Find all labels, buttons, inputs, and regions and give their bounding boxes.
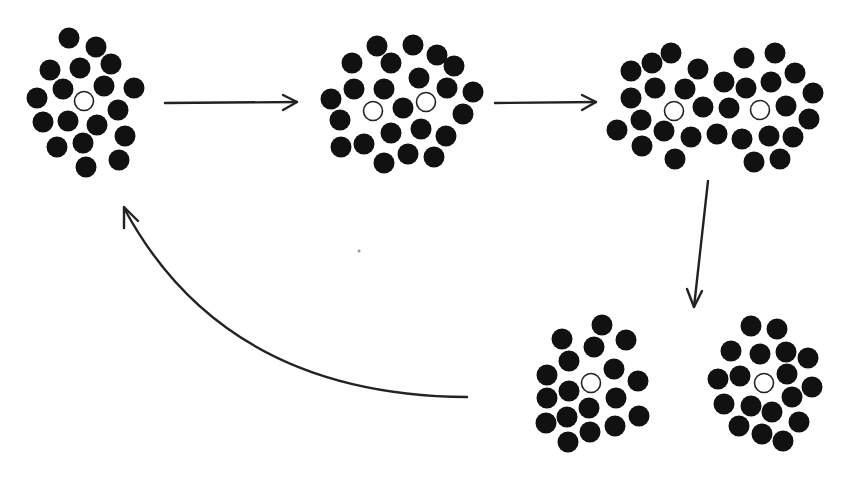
filled-particle [773,431,794,452]
filled-particle [53,79,74,100]
filled-particle [767,319,788,340]
arrow-shaft [165,102,297,103]
filled-particle [762,402,783,423]
filled-particle [708,369,729,390]
cluster-4-split-left [536,315,650,453]
filled-particle [744,152,765,173]
filled-particle [558,432,579,453]
filled-particle [115,126,136,147]
speck [358,250,361,253]
filled-particle [109,150,130,171]
filled-particle [605,416,626,437]
filled-particle [621,88,642,109]
filled-particle [76,157,97,178]
filled-particle [782,387,803,408]
filled-particle [661,43,682,64]
filled-particle [27,88,48,109]
filled-particle [732,129,753,150]
hollow-vacancy [755,374,774,393]
filled-particle [559,381,580,402]
filled-particle [398,144,419,165]
filled-particle [629,406,650,427]
arrow-shaft [694,181,708,307]
clusters-layer [27,28,824,453]
arrow-2-to-3 [495,95,596,110]
filled-particle [321,89,342,110]
filled-particle [719,98,740,119]
hollow-vacancy [75,92,94,111]
cluster-2-two-holes [321,35,484,174]
filled-particle [632,136,653,157]
filled-particle [344,79,365,100]
filled-particle [776,342,797,363]
filled-particle [606,388,627,409]
filled-particle [688,59,709,80]
filled-particle [33,112,54,133]
cluster-1-single [27,28,145,178]
filled-particle [70,58,91,79]
filled-particle [331,137,352,158]
filled-particle [124,78,145,99]
filled-particle [654,121,675,142]
arrowhead-icon [124,207,138,228]
filled-particle [381,123,402,144]
filled-particle [621,61,642,82]
filled-particle [437,78,458,99]
cluster-3-double [607,43,824,173]
filled-particle [536,413,557,434]
filled-particle [393,98,414,119]
filled-particle [354,134,375,155]
filled-particle [58,111,79,132]
filled-particle [374,153,395,174]
filled-particle [721,341,742,362]
filled-particle [87,115,108,136]
filled-particle [802,377,823,398]
filled-particle [729,416,750,437]
filled-particle [803,83,824,104]
cluster-cycle-diagram [0,0,853,477]
filled-particle [616,330,637,351]
filled-particle [424,147,445,168]
filled-particle [783,127,804,148]
filled-particle [750,344,771,365]
filled-particle [799,109,820,130]
filled-particle [759,126,780,147]
specks-layer [358,250,361,253]
filled-particle [798,348,819,369]
filled-particle [776,96,797,117]
hollow-vacancy [665,102,684,121]
filled-particle [59,28,80,49]
filled-particle [559,351,580,372]
hollow-vacancy [751,101,770,120]
arrow-shaft [124,208,467,397]
filled-particle [765,43,786,64]
filled-particle [453,104,474,125]
filled-particle [537,365,558,386]
filled-particle [436,126,457,147]
filled-particle [628,371,649,392]
filled-particle [714,72,735,93]
filled-particle [557,407,578,428]
filled-particle [342,53,363,74]
filled-particle [381,53,402,74]
filled-particle [604,359,625,380]
filled-particle [607,120,628,141]
filled-particle [736,78,757,99]
filled-particle [463,82,484,103]
filled-particle [631,110,652,131]
cluster-5-split-right [708,316,823,452]
filled-particle [752,424,773,445]
filled-particle [367,36,388,57]
arrow-shaft [495,102,596,103]
filled-particle [730,366,751,387]
arrow-return-curve [124,207,467,397]
filled-particle [707,124,728,145]
filled-particle [101,54,122,75]
filled-particle [785,63,806,84]
filled-particle [374,79,395,100]
filled-particle [579,398,600,419]
hollow-vacancy [417,93,436,112]
filled-particle [411,119,432,140]
filled-particle [789,412,810,433]
filled-particle [580,422,601,443]
